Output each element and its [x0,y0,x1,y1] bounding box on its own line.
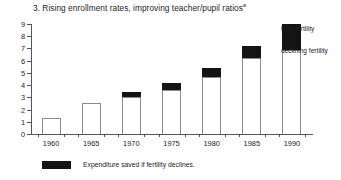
chart-container: 3. Rising enrollment rates, improving te… [0,0,341,180]
chart-title-superscript: a [243,2,246,8]
x-tick-label-1970: 1970 [111,140,151,147]
x-minor-tick-1980-1 [225,134,226,137]
bar-1980[interactable] [202,68,221,134]
bar-segment-declining-fertility-1960 [42,118,61,134]
bar-1985[interactable] [242,46,261,134]
y-tick-label-6: 6 [13,57,25,64]
y-tick-8 [27,36,31,37]
bar-segment-high-fertility-1975 [162,83,181,90]
x-minor-tick-1975-1 [185,134,186,137]
annotation-declining-fertility: declining fertility [281,47,328,54]
x-minor-tick-1960-0 [38,134,39,137]
x-minor-tick-1960-1 [64,134,65,137]
y-tick-2 [27,110,31,111]
y-tick-label-2: 2 [13,106,25,113]
x-minor-tick-1990-0 [279,134,280,137]
legend-swatch-expenditure-saved [42,161,71,169]
x-tick-label-1990: 1990 [272,140,312,147]
legend: Expenditure saved if fertility declines. [42,161,195,169]
y-tick-label-8: 8 [13,33,25,40]
bar-segment-declining-fertility-1970 [122,97,141,134]
bar-1990[interactable] [282,24,301,134]
x-minor-tick-1980-0 [199,134,200,137]
bar-segment-declining-fertility-1965 [82,103,101,134]
y-tick-1 [27,122,31,123]
chart-title-text: 3. Rising enrollment rates, improving te… [33,3,243,13]
x-minor-tick-1965-1 [104,134,105,137]
bar-1965[interactable] [82,103,101,134]
y-tick-0 [27,134,31,135]
x-minor-tick-1970-0 [118,134,119,137]
x-minor-tick-1985-1 [265,134,266,137]
x-tick-label-1960: 1960 [31,140,71,147]
y-tick-label-9: 9 [13,21,25,28]
y-tick-3 [27,97,31,98]
chart-title: 3. Rising enrollment rates, improving te… [33,2,246,13]
bar-1960[interactable] [42,118,61,134]
x-tick-label-1965: 1965 [71,140,111,147]
x-tick-label-1985: 1985 [232,140,272,147]
annotation-high-fertility: high fertility [281,25,314,32]
legend-label: Expenditure saved if fertility declines. [83,161,195,169]
y-tick-label-3: 3 [13,94,25,101]
y-tick-label-1: 1 [13,118,25,125]
x-minor-tick-1965-0 [78,134,79,137]
x-minor-tick-1975-0 [159,134,160,137]
bar-segment-declining-fertility-1980 [202,77,221,134]
bar-segment-high-fertility-1970 [122,92,141,97]
x-tick-label-1975: 1975 [152,140,192,147]
x-tick-label-1980: 1980 [192,140,232,147]
y-axis-line [31,24,32,135]
bar-segment-declining-fertility-1985 [242,58,261,134]
bar-segment-high-fertility-1980 [202,68,221,77]
x-minor-tick-1985-0 [239,134,240,137]
bar-1970[interactable] [122,92,141,134]
bar-segment-declining-fertility-1990 [282,50,301,134]
y-tick-7 [27,48,31,49]
y-tick-label-7: 7 [13,45,25,52]
x-minor-tick-1990-1 [305,134,306,137]
bar-1975[interactable] [162,83,181,134]
y-tick-label-5: 5 [13,69,25,76]
y-tick-5 [27,73,31,74]
bar-segment-high-fertility-1985 [242,46,261,58]
x-axis-line [31,134,313,135]
y-tick-label-0: 0 [13,131,25,138]
y-tick-9 [27,24,31,25]
y-tick-4 [27,85,31,86]
plot-area: 0123456789 1960196519701975198019851990 [31,24,312,134]
y-tick-6 [27,61,31,62]
y-tick-label-4: 4 [13,82,25,89]
x-minor-tick-1970-1 [144,134,145,137]
bar-segment-declining-fertility-1975 [162,90,181,134]
